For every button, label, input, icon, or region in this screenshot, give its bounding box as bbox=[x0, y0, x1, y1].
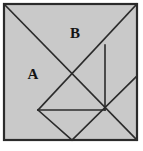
piece-label-a: A bbox=[28, 66, 39, 82]
piece-label-b: B bbox=[70, 25, 80, 41]
tangram-figure: A B bbox=[0, 0, 143, 151]
tangram-square-group bbox=[4, 4, 137, 140]
tangram-diagram: A B bbox=[0, 0, 143, 151]
